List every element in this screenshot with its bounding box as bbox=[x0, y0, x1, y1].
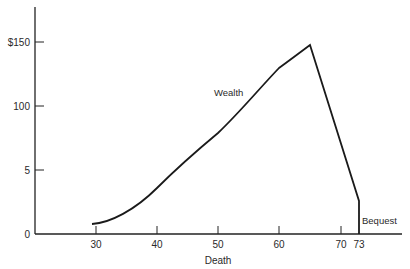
chart: $150 100 5 0 30 40 50 60 70 73 Death Wea… bbox=[0, 0, 410, 269]
y-tick-label-50: 5 bbox=[24, 165, 30, 176]
y-tick-label-0: 0 bbox=[24, 229, 30, 240]
wealth-annotation: Wealth bbox=[214, 87, 243, 98]
x-tick-label-40: 40 bbox=[151, 239, 163, 250]
y-tick-label-150: $150 bbox=[8, 37, 31, 48]
x-tick-label-70: 70 bbox=[335, 239, 347, 250]
x-tick-label-30: 30 bbox=[90, 239, 102, 250]
x-tick-label-50: 50 bbox=[212, 239, 224, 250]
bequest-annotation: Bequest bbox=[362, 215, 397, 226]
x-tick-label-73: 73 bbox=[353, 239, 365, 250]
y-tick-label-100: 100 bbox=[13, 101, 30, 112]
x-ticks bbox=[96, 226, 341, 234]
x-axis-label: Death bbox=[205, 255, 232, 266]
x-tick-label-60: 60 bbox=[273, 239, 285, 250]
wealth-line bbox=[92, 45, 359, 234]
y-ticks bbox=[35, 42, 44, 170]
